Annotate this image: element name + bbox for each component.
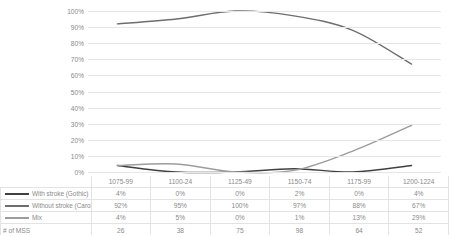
- column-header-1175-99: 1175-99: [329, 176, 389, 188]
- cell-without-stroke-caroline--1175-99: 88%: [329, 200, 389, 212]
- column-header-1150-74: 1150-74: [270, 176, 330, 188]
- legend-item: With stroke (Gothic): [1, 188, 92, 200]
- column-header-1200-1224: 1200-1224: [389, 176, 449, 188]
- gridline: [88, 92, 441, 93]
- gridline: [88, 75, 441, 76]
- y-axis-tick-label: 50%: [71, 88, 84, 95]
- column-header-1075-99: 1075-99: [91, 176, 151, 188]
- gridline: [88, 59, 441, 60]
- cell-without-stroke-caroline--1200-1224: 67%: [389, 200, 449, 212]
- cell-with-stroke-gothic--1075-99: 4%: [91, 188, 151, 200]
- legend-label: Mix: [32, 214, 42, 222]
- table-row: Without stroke (Caroline)92%95%100%97%88…: [1, 200, 449, 212]
- legend-swatch-icon: [5, 217, 29, 219]
- cell-without-stroke-caroline--1100-24: 95%: [151, 200, 211, 212]
- y-axis-tick-label: 30%: [71, 120, 84, 127]
- column-header-1100-24: 1100-24: [151, 176, 211, 188]
- y-axis-tick-label: 10%: [71, 152, 84, 159]
- cell-without-stroke-caroline--1125-49: 100%: [210, 200, 270, 212]
- table-row-count: # of MSS263875986452: [1, 224, 449, 236]
- legend-item: Mix: [1, 212, 92, 224]
- y-axis-tick-label: 20%: [71, 136, 84, 143]
- cell-mix-1100-24: 5%: [151, 212, 211, 224]
- count-row-label: # of MSS: [1, 224, 92, 236]
- legend-label: With stroke (Gothic): [32, 190, 88, 198]
- cell-mix-1075-99: 4%: [91, 212, 151, 224]
- legend-item: Without stroke (Caroline): [1, 200, 92, 212]
- table-row: Mix4%5%0%1%13%29%: [1, 212, 449, 224]
- cell-mss-count-1100-24: 38: [151, 224, 211, 236]
- gridline: [88, 156, 441, 157]
- line-chart-with-data-table: 100%90%80%70%60%50%40%30%20%10%0% 1075-9…: [0, 0, 449, 235]
- cell-with-stroke-gothic--1125-49: 0%: [210, 188, 270, 200]
- y-axis-tick-label: 0%: [74, 169, 84, 176]
- gridline: [88, 172, 441, 173]
- cell-mss-count-1075-99: 26: [91, 224, 151, 236]
- data-table: 1075-991100-241125-491150-741175-991200-…: [0, 176, 449, 235]
- legend-label: Without stroke (Caroline): [32, 202, 91, 210]
- cell-with-stroke-gothic--1150-74: 2%: [270, 188, 330, 200]
- cell-mss-count-1150-74: 98: [270, 224, 330, 236]
- gridline: [88, 124, 441, 125]
- cell-mss-count-1175-99: 64: [329, 224, 389, 236]
- table-row: With stroke (Gothic)4%0%0%2%0%4%: [1, 188, 449, 200]
- series-line: [117, 125, 411, 173]
- cell-with-stroke-gothic--1175-99: 0%: [329, 188, 389, 200]
- gridline: [88, 43, 441, 44]
- table-header-row: 1075-991100-241125-491150-741175-991200-…: [1, 176, 449, 188]
- gridline: [88, 27, 441, 28]
- series-line: [117, 11, 411, 64]
- cell-without-stroke-caroline--1150-74: 97%: [270, 200, 330, 212]
- cell-mix-1175-99: 13%: [329, 212, 389, 224]
- y-axis-tick-label: 70%: [71, 56, 84, 63]
- y-axis-tick-label: 40%: [71, 104, 84, 111]
- legend-swatch-icon: [5, 193, 29, 195]
- gridline: [88, 140, 441, 141]
- y-axis-tick-label: 100%: [67, 8, 84, 15]
- cell-mix-1125-49: 0%: [210, 212, 270, 224]
- plot-wrapper: 100%90%80%70%60%50%40%30%20%10%0%: [0, 0, 449, 176]
- cell-with-stroke-gothic--1100-24: 0%: [151, 188, 211, 200]
- gridline: [88, 108, 441, 109]
- legend-swatch-icon: [5, 205, 29, 207]
- cell-mss-count-1125-49: 75: [210, 224, 270, 236]
- cell-mix-1150-74: 1%: [270, 212, 330, 224]
- y-axis-tick-label: 90%: [71, 24, 84, 31]
- cell-without-stroke-caroline--1075-99: 92%: [91, 200, 151, 212]
- table-corner-cell: [1, 176, 92, 188]
- gridline: [88, 11, 441, 12]
- plot-area: [88, 0, 441, 176]
- column-header-1125-49: 1125-49: [210, 176, 270, 188]
- data-table-body: 1075-991100-241125-491150-741175-991200-…: [1, 176, 449, 235]
- cell-mix-1200-1224: 29%: [389, 212, 449, 224]
- y-axis-tick-label: 60%: [71, 72, 84, 79]
- y-axis: 100%90%80%70%60%50%40%30%20%10%0%: [0, 0, 88, 176]
- cell-with-stroke-gothic--1200-1224: 4%: [389, 188, 449, 200]
- y-axis-tick-label: 80%: [71, 40, 84, 47]
- cell-mss-count-1200-1224: 52: [389, 224, 449, 236]
